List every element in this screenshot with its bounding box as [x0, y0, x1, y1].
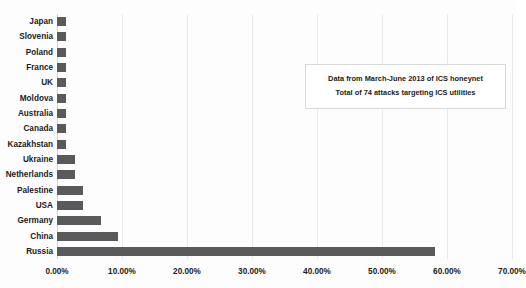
bar-row — [57, 230, 512, 242]
x-tick-label: 10.00% — [108, 267, 136, 276]
bar — [57, 78, 66, 87]
category-axis-labels: JapanSloveniaPolandFranceUKMoldovaAustra… — [0, 14, 53, 259]
bar-row — [57, 108, 512, 120]
bar-row — [57, 215, 512, 227]
bar-row — [57, 199, 512, 211]
x-axis: 0.00%10.00%20.00%30.00%40.00%50.00%60.00… — [57, 259, 512, 285]
category-label: Canada — [0, 124, 53, 133]
category-label: Palestine — [0, 186, 53, 195]
category-label: Moldova — [0, 94, 53, 103]
annotation-line-1: Data from March-June 2013 of ICS honeyne… — [312, 72, 499, 86]
category-label: USA — [0, 201, 53, 210]
category-label: Slovenia — [0, 32, 53, 41]
bar — [57, 63, 66, 72]
bar — [57, 94, 66, 103]
x-tick-label: 40.00% — [303, 267, 331, 276]
bar — [57, 170, 75, 179]
category-label: Kazakhstan — [0, 140, 53, 149]
category-label: Ukraine — [0, 155, 53, 164]
x-tick-label: 0.00% — [45, 267, 68, 276]
bar-row — [57, 153, 512, 165]
category-label: Australia — [0, 109, 53, 118]
bar — [57, 155, 75, 164]
bar-row — [57, 169, 512, 181]
category-label: China — [0, 232, 53, 241]
bar-row — [57, 16, 512, 28]
bar-series — [57, 14, 512, 259]
bar-row — [57, 184, 512, 196]
bar-row — [57, 245, 512, 257]
category-label: Germany — [0, 216, 53, 225]
bar-row — [57, 138, 512, 150]
category-label: France — [0, 63, 53, 72]
plot-area — [57, 14, 512, 259]
category-label: Poland — [0, 48, 53, 57]
bar-row — [57, 31, 512, 43]
gridline — [512, 14, 513, 259]
annotation-textbox: Data from March-June 2013 of ICS honeyne… — [305, 64, 506, 109]
bar — [57, 32, 66, 41]
bar — [57, 109, 66, 118]
bar-row — [57, 123, 512, 135]
bar — [57, 232, 118, 241]
bar — [57, 216, 101, 225]
category-label: UK — [0, 78, 53, 87]
x-tick-label: 20.00% — [173, 267, 201, 276]
bar — [57, 48, 66, 57]
category-label: Netherlands — [0, 170, 53, 179]
annotation-line-2: Total of 74 attacks targeting ICS utilit… — [312, 86, 499, 100]
x-tick-label: 70.00% — [498, 267, 526, 276]
bar — [57, 124, 66, 133]
x-tick-label: 30.00% — [238, 267, 266, 276]
bar — [57, 247, 435, 256]
bar-row — [57, 46, 512, 58]
bar — [57, 186, 83, 195]
x-tick-label: 50.00% — [368, 267, 396, 276]
category-label: Japan — [0, 17, 53, 26]
bar — [57, 17, 66, 26]
category-label: Russia — [0, 247, 53, 256]
bar — [57, 201, 83, 210]
x-tick-label: 60.00% — [433, 267, 461, 276]
bar — [57, 140, 66, 149]
